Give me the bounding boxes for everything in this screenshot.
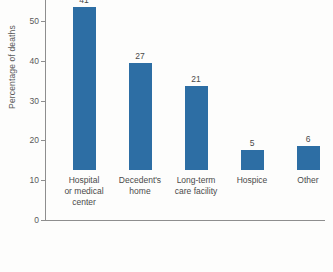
bar-value-label: 5 [241,138,264,148]
bar-group[interactable]: 41Hospitalor medicalcenter [56,7,112,170]
bar-value-label: 41 [73,0,96,5]
plot-area: 01020304050 41Hospitalor medicalcenter27… [45,0,325,221]
y-axis-title: Percentage of deaths [7,7,17,127]
x-category-label: Other [274,175,333,186]
y-axis-line [45,0,46,221]
y-tick-mark [41,140,45,141]
bar-group[interactable]: 6Other [280,146,333,170]
y-tick-label: 40 [30,56,39,66]
bar-rect[interactable]: 5 [241,150,264,170]
bar-rect[interactable]: 21 [185,86,208,170]
bar-value-label: 21 [185,74,208,84]
x-axis-line [45,220,325,221]
y-tick-mark [41,21,45,22]
bar-group[interactable]: 21Long-termcare facility [168,86,224,170]
bar-rect[interactable]: 6 [297,146,320,170]
bar-chart-figure: Percentage of deaths 01020304050 41Hospi… [0,0,333,272]
y-tick-mark [41,61,45,62]
y-tick-label: 0 [34,215,39,225]
y-tick-label: 10 [30,175,39,185]
y-tick-mark [41,220,45,221]
bar-value-label: 27 [129,51,152,61]
y-tick-label: 20 [30,135,39,145]
x-category-line: care facility [162,186,230,197]
y-tick-mark [41,101,45,102]
y-tick-label: 30 [30,96,39,106]
y-tick-label: 50 [30,16,39,26]
bar-group[interactable]: 5Hospice [224,150,280,170]
y-tick-mark [41,180,45,181]
bar-rect[interactable]: 41 [73,7,96,170]
bar-rect[interactable]: 27 [129,63,152,170]
bar-group[interactable]: 27Decedent'shome [112,63,168,170]
bar-value-label: 6 [297,134,320,144]
x-category-line: center [50,197,118,208]
x-category-line: Other [274,175,333,186]
